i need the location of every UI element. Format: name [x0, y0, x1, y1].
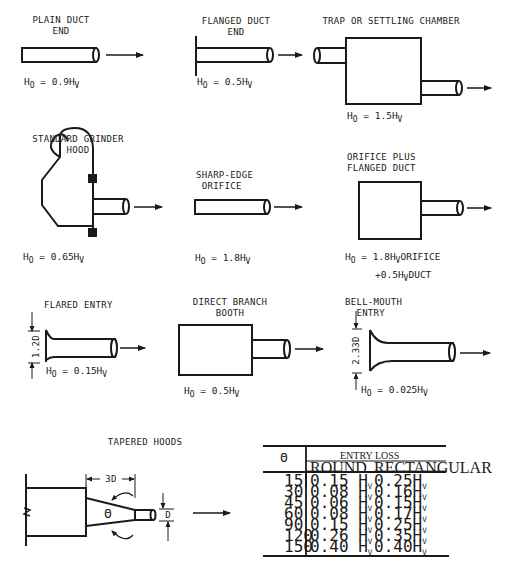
bell-mouth-entry-drawing [352, 311, 490, 390]
orifice-plus-flanged-title: ORIFICE PLUS FLANGED DUCT [347, 152, 423, 174]
flared-entry-title: FLARED ENTRY [44, 300, 119, 311]
sharp-edge-orifice-title: SHARP-EDGE ORIFICE [196, 170, 254, 192]
sharp-edge-orifice-drawing [195, 200, 302, 214]
grinder-hood-equation: HO = 0.65HV [23, 251, 84, 263]
direct-branch-booth-title: DIRECT BRANCH BOOTH [190, 297, 270, 319]
sharp-edge-orifice-equation: HO = 1.8HV [195, 252, 250, 264]
table-angle-header: Θ [280, 452, 288, 463]
flanged-duct-end-drawing [196, 36, 302, 76]
tapered-angle-symbol: Θ [100, 508, 116, 519]
trap-chamber-title: TRAP OR SETTLING CHAMBER [316, 16, 466, 27]
orifice-plus-flanged-equation-line2: +0.5HVDUCT [375, 269, 431, 281]
plain-duct-end-equation: HO = 0.9HV [24, 76, 79, 88]
trap-chamber-drawing [314, 38, 491, 104]
grinder-hood-title: STANDARD GRINDER HOOD [28, 134, 128, 156]
direct-branch-booth-equation: HO = 0.5HV [184, 385, 239, 397]
bell-mouth-entry-equation: HO = 0.025HV [361, 384, 428, 396]
plain-duct-end-drawing [22, 48, 143, 62]
orifice-plus-flanged-equation: HO = 1.8HVORIFICE [345, 251, 440, 263]
orifice-plus-flanged-duct-drawing [359, 182, 491, 239]
tapered-length-dimension: 3D [100, 474, 122, 485]
direct-branch-booth-drawing [179, 325, 323, 375]
flared-entry-equation: HO = 0.15HV [46, 365, 107, 377]
flared-entry-dimension: 1.2D [31, 335, 42, 359]
trap-chamber-equation: HO = 1.5HV [347, 110, 402, 122]
bell-mouth-dimension: 2.33D [351, 336, 362, 366]
tapered-hoods-title: TAPERED HOODS [105, 437, 185, 448]
plain-duct-end-title: PLAIN DUCT END [22, 15, 100, 37]
flanged-duct-end-title: FLANGED DUCT END [196, 16, 276, 38]
tapered-diameter-dimension: D [162, 510, 174, 521]
bell-mouth-entry-title: BELL-MOUTH ENTRY [345, 297, 409, 319]
tapered-hood-drawing [24, 474, 230, 546]
flanged-duct-end-equation: HO = 0.5HV [197, 76, 252, 88]
